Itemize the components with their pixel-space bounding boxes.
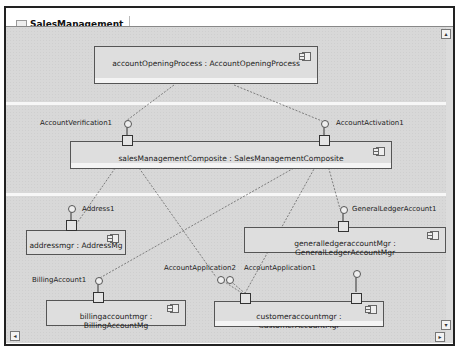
port-general-ledger-account[interactable] xyxy=(338,221,349,232)
component-label: generalledgeraccountMgr : GeneralLedgerA… xyxy=(245,239,445,257)
port-billing-account[interactable] xyxy=(93,292,104,303)
component-account-opening-process[interactable]: accountOpeningProcess : AccountOpeningPr… xyxy=(94,46,318,84)
scroll-right-button[interactable]: ▸ xyxy=(435,332,445,342)
port-account-activation[interactable] xyxy=(319,135,330,146)
component-label: salesManagementComposite : SalesManageme… xyxy=(71,154,391,163)
component-icon xyxy=(170,304,179,313)
port-account-application[interactable] xyxy=(240,293,251,304)
interface-socket-icon[interactable] xyxy=(340,206,348,214)
component-icon xyxy=(368,305,377,314)
interface-socket-icon[interactable] xyxy=(68,205,76,213)
interface-socket-icon[interactable] xyxy=(124,120,132,128)
scroll-left-button[interactable]: ◂ xyxy=(10,331,20,341)
interface-label: Address1 xyxy=(82,205,114,213)
component-icon xyxy=(302,52,311,61)
component-icon xyxy=(110,234,119,243)
scroll-down-button[interactable]: ▾ xyxy=(441,320,451,330)
port-customer-account[interactable] xyxy=(351,293,362,304)
interface-label: BillingAccount1 xyxy=(32,276,86,284)
interface-label: AccountApplication1 xyxy=(244,264,316,272)
interface-label: AccountVerification1 xyxy=(40,119,112,127)
interface-lollipop-icon[interactable] xyxy=(353,270,361,278)
interface-socket-icon[interactable] xyxy=(321,120,329,128)
interface-label: AccountActivation1 xyxy=(336,119,404,127)
component-billingaccountmgr[interactable]: billingaccountmgr : BillingAccountMg xyxy=(46,300,186,326)
scroll-up-button[interactable]: ▴ xyxy=(441,29,451,39)
component-addressmgr[interactable]: addressmgr : AddressMg xyxy=(26,230,126,255)
port-account-verification[interactable] xyxy=(122,135,133,146)
interface-socket-icon[interactable] xyxy=(95,277,103,285)
interface-label: AccountApplication2 xyxy=(164,264,236,272)
diagram-canvas[interactable]: accountOpeningProcess : AccountOpeningPr… xyxy=(6,26,453,343)
interface-socket-icon[interactable] xyxy=(217,276,225,284)
interface-socket-icon[interactable] xyxy=(226,276,234,284)
component-icon xyxy=(376,147,385,156)
component-sales-management-composite[interactable]: salesManagementComposite : SalesManageme… xyxy=(70,141,392,169)
component-label: billingaccountmgr : BillingAccountMg xyxy=(47,312,185,330)
component-icon xyxy=(430,231,439,240)
component-label: accountOpeningProcess : AccountOpeningPr… xyxy=(95,59,317,68)
port-address[interactable] xyxy=(66,220,77,231)
component-customeraccountmgr[interactable]: customeraccountmgr : CustomerAccountMgr xyxy=(214,301,384,327)
interface-label: GeneralLedgerAccount1 xyxy=(352,205,436,213)
